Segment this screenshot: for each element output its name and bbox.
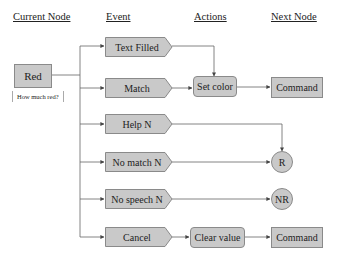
event-label: Cancel [105, 227, 169, 247]
current-node-prompt: How much red? [12, 91, 64, 102]
event-label: Match [105, 78, 169, 98]
action-set-color: Set color [193, 76, 237, 97]
next-node-command-2: Command [271, 227, 323, 248]
event-no-speech-n: No speech N [105, 189, 173, 209]
next-node-command-1: Command [271, 77, 323, 98]
action-clear-value: Clear value [190, 227, 245, 248]
event-cancel: Cancel [105, 227, 173, 247]
next-node-nr: NR [271, 188, 293, 210]
event-match: Match [105, 78, 173, 98]
event-label: No speech N [105, 189, 169, 209]
event-text-filled: Text Filled [105, 37, 173, 57]
event-no-match-n: No match N [105, 152, 173, 172]
current-node-red: Red [14, 64, 52, 88]
event-help-n: Help N [105, 114, 173, 134]
event-label: No match N [105, 152, 169, 172]
event-label: Help N [105, 114, 169, 134]
event-label: Text Filled [105, 37, 169, 57]
next-node-r: R [271, 151, 293, 173]
